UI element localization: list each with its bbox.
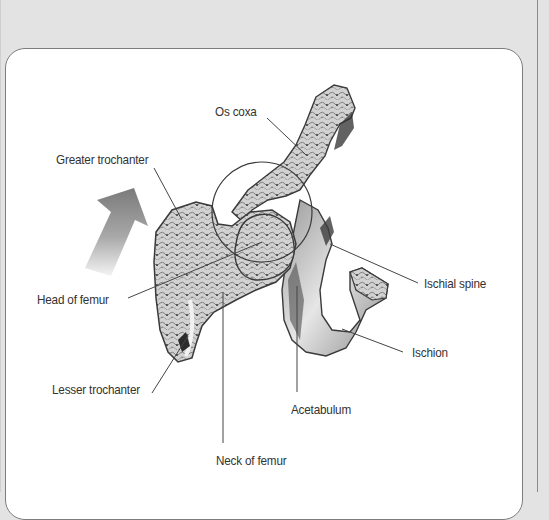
ischium-shape	[282, 200, 388, 356]
label-greater-trochanter: Greater trochanter	[56, 152, 148, 167]
leader-greater-trochanter	[154, 168, 182, 220]
label-head-of-femur: Head of femur	[37, 292, 109, 307]
movement-arrow-icon	[85, 188, 148, 276]
label-ischion: Ischion	[412, 345, 448, 360]
label-os-coxa: Os coxa	[215, 104, 257, 119]
label-neck-of-femur: Neck of femur	[216, 453, 286, 468]
label-acetabulum: Acetabulum	[291, 402, 351, 417]
label-ischial-spine: Ischial spine	[424, 276, 486, 291]
label-lesser-trochanter: Lesser trochanter	[52, 382, 140, 397]
femur-shape	[154, 202, 296, 362]
